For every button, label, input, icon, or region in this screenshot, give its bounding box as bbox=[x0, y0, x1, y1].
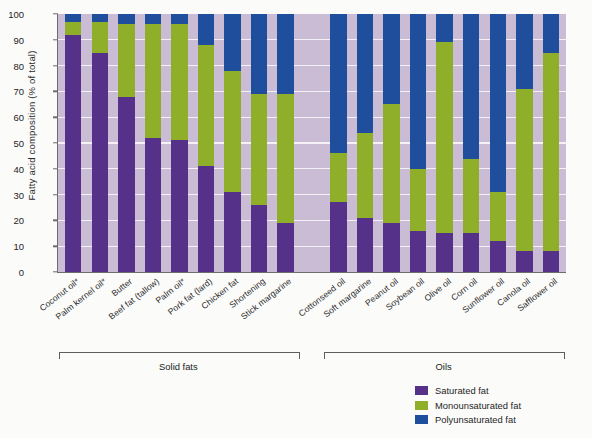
group-bracket-label: Solid fats bbox=[59, 361, 298, 372]
y-axis-tick-label: 50 bbox=[0, 138, 24, 149]
group-bracket bbox=[324, 352, 565, 359]
y-axis-tick-label: 20 bbox=[0, 215, 24, 226]
y-axis-tick-mark bbox=[53, 220, 58, 221]
y-axis-tick-mark bbox=[53, 65, 58, 66]
y-axis-tick-label: 100 bbox=[0, 9, 24, 20]
legend-label: Monounsaturated fat bbox=[435, 400, 521, 411]
y-axis-tick-label: 70 bbox=[0, 86, 24, 97]
y-axis-tick-mark bbox=[53, 13, 58, 14]
y-axis-tick-label: 60 bbox=[0, 112, 24, 123]
legend-item[interactable]: Saturated fat bbox=[415, 385, 521, 396]
group-bracket bbox=[59, 352, 300, 359]
y-axis-tick-mark bbox=[53, 194, 58, 195]
legend-item[interactable]: Monounsaturated fat bbox=[415, 400, 521, 411]
legend-swatch bbox=[415, 386, 428, 395]
y-axis-tick-label: 10 bbox=[0, 241, 24, 252]
chart-figure: Fatty acid composition (% of total) Coco… bbox=[0, 0, 592, 438]
y-axis-tick-mark bbox=[53, 168, 58, 169]
legend-label: Saturated fat bbox=[435, 385, 489, 396]
y-axis-tick-mark bbox=[53, 271, 58, 272]
y-axis-tick-mark bbox=[53, 116, 58, 117]
group-bracket-label: Oils bbox=[324, 361, 563, 372]
x-axis-labels: Coconut oil*Palm kernel oil*ButterBeef f… bbox=[0, 0, 592, 438]
y-axis-tick-mark bbox=[53, 142, 58, 143]
y-axis-tick-mark bbox=[53, 91, 58, 92]
y-axis-tick-label: 0 bbox=[0, 267, 24, 278]
legend-swatch bbox=[415, 415, 428, 424]
legend: Saturated fatMonounsaturated fatPolyunsa… bbox=[415, 385, 521, 429]
legend-label: Polyunsaturated fat bbox=[435, 414, 516, 425]
y-axis-tick-mark bbox=[53, 245, 58, 246]
x-axis-tick-label: Olive oil bbox=[422, 276, 453, 303]
y-axis-tick-label: 90 bbox=[0, 34, 24, 45]
legend-swatch bbox=[415, 401, 428, 410]
legend-item[interactable]: Polyunsaturated fat bbox=[415, 414, 521, 425]
y-axis-tick-label: 80 bbox=[0, 60, 24, 71]
y-axis-tick-mark bbox=[53, 39, 58, 40]
y-axis-tick-label: 30 bbox=[0, 189, 24, 200]
y-axis-tick-label: 40 bbox=[0, 163, 24, 174]
